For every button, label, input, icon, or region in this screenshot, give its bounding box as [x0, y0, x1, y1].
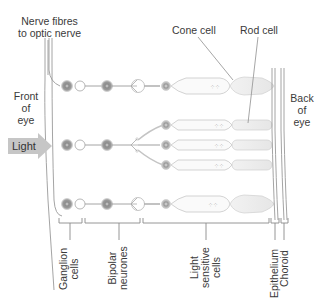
nerve-fibres-line2: to optic nerve: [18, 27, 81, 39]
nerve-fibres-line1: Nerve fibres: [18, 15, 81, 27]
cone-cell-label: Cone cell: [172, 24, 216, 36]
svg-text:⁘⁘: ⁘⁘: [214, 163, 224, 169]
back-line1: Back: [288, 92, 316, 104]
light-sensitive-cells-label: Light sensitive cells: [189, 247, 222, 288]
neuron-row-1: ⁘⁘: [62, 77, 275, 95]
light-label: Light: [12, 140, 36, 152]
bipolar-neurones-label: Bipolar neurones: [107, 246, 129, 290]
bipolar-line2: neurones: [118, 246, 129, 290]
svg-text:⁘⁘: ⁘⁘: [210, 84, 220, 90]
rod-cell-label: Rod cell: [240, 24, 278, 36]
ganglion-cells-label: Ganglion cells: [58, 248, 80, 290]
ganglion-line2: cells: [69, 248, 80, 290]
svg-text:⁘⁘: ⁘⁘: [214, 123, 224, 129]
svg-text:⁘⁘: ⁘⁘: [214, 143, 224, 149]
nerve-fibres-label: Nerve fibres to optic nerve: [18, 15, 81, 39]
neuron-row-middle: ⁘⁘ ⁘⁘ ⁘⁘: [62, 120, 273, 170]
front-line1: Front: [10, 90, 42, 102]
neuron-row-bottom: ⁘⁘: [62, 195, 275, 213]
cone-cell-pointer: [198, 37, 233, 80]
choroid-layer: [281, 68, 287, 220]
epithelium-layer: [272, 68, 278, 220]
front-of-eye-label: Front of eye: [10, 90, 42, 126]
svg-text:⁘⁘: ⁘⁘: [208, 202, 218, 208]
back-line2: of: [288, 104, 316, 116]
light-sensitive-line3: cells: [211, 247, 222, 288]
back-of-eye-label: Back of eye: [288, 92, 316, 128]
front-line3: eye: [10, 114, 42, 126]
choroid-label: Choroid: [279, 250, 290, 287]
bottom-brackets: [59, 218, 288, 240]
back-line3: eye: [288, 116, 316, 128]
front-line2: of: [10, 102, 42, 114]
